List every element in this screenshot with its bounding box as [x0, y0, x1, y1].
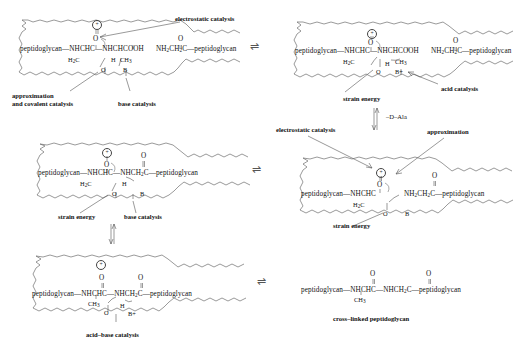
equilibrium-arrow-middle: ⇌ [252, 163, 261, 176]
serine-oxygen: O [383, 210, 388, 217]
acyl-enzyme-chain: peptidoglycan—NHCHC [301, 190, 376, 198]
label-cross-linked-peptidoglycan: cross–linked peptidoglycan [333, 315, 409, 322]
label-approximation-covalent-1: approximation [12, 92, 54, 99]
pointer-electrostatic-mr [300, 134, 380, 174]
methylene-group: H2C [68, 56, 79, 64]
base-group: B [140, 190, 144, 197]
label-approximation-mr: approximation [427, 128, 469, 135]
transferred-hydrogen: H [385, 60, 390, 67]
enzyme-charge-icon: + [96, 260, 106, 270]
methylene-group: H2C [343, 58, 354, 66]
panel-top-right: + O peptidoglycan—NHCHC—NHCHCOOH NH2CH2C… [283, 12, 515, 94]
pointer-approximation-mr [392, 136, 452, 180]
product-methyl-group: CH3 [354, 296, 365, 304]
product-chain: peptidoglycan—NHCHC—NHCH2C—peptidoglycan [301, 286, 461, 294]
label-electrostatic-catalysis-mr: electrostatic catalysis [276, 126, 335, 133]
label-base-catalysis-tl: base catalysis [118, 100, 156, 107]
equilibrium-arrow-bottom: ⇌ [257, 275, 266, 288]
equilibrium-arrow-top: ⇌ [250, 40, 259, 53]
label-strain-energy-ml: strain energy [58, 213, 95, 220]
amide-hydrogen: H [122, 180, 127, 187]
protonated-base: B+ [128, 310, 136, 317]
substrate-right-chain: NH2CH2C—peptidoglycan [431, 47, 511, 55]
panel-middle-left: + O peptidoglycan—NHCHC—NHCH2C—peptidogl… [28, 137, 250, 215]
pointer-electrostatic-tl [95, 20, 185, 42]
bond-lines [293, 270, 517, 320]
label-strain-energy-mr: strain energy [333, 222, 370, 229]
label-d-ala-loss: –D–Ala [386, 113, 407, 120]
bond-lines [24, 250, 248, 324]
glycine-amine-chain: NH2CH2C—peptidoglycan [404, 190, 484, 198]
acyl-oxygen-right: O [141, 152, 146, 160]
carbonyl-oxygen: O [377, 181, 382, 189]
carbonyl-oxygen-right: O [138, 274, 143, 282]
label-acid-catalysis-tr: acid catalysis [441, 85, 478, 92]
cross-linked-chain: peptidoglycan—NHCHC—NHCH2C—peptidoglycan [32, 290, 192, 298]
label-acid-base-catalysis: acid–base catalysis [86, 331, 139, 338]
acyl-oxygen-right: O [453, 37, 458, 45]
vertical-equilibrium-arrow [107, 222, 121, 248]
methylene-group: H2C [80, 180, 91, 188]
enzyme-charge-icon: + [367, 29, 377, 39]
substrate-right-chain: NH2CH2C—peptidoglycan [156, 45, 236, 53]
base-group: B [123, 66, 127, 73]
methylene-group: H2C [353, 201, 364, 209]
methyl-group: CH3 [88, 300, 99, 308]
enzyme-envelope-icon [24, 250, 248, 324]
methyl-group: CH3 [120, 56, 131, 64]
serine-oxygen: O [112, 190, 117, 197]
transferred-hydrogen: H [111, 56, 116, 63]
methyl-group: CH3 [395, 58, 406, 66]
label-base-catalysis-ml: base catalysis [124, 213, 162, 220]
tetrahedral-intermediate-chain: peptidoglycan—NHCHC—NHCH2C—peptidoglycan [38, 169, 198, 177]
carbonyl-oxygen-left: O [99, 274, 104, 282]
enzyme-charge-icon: + [102, 148, 112, 158]
protonated-base: B+ [395, 68, 403, 75]
panel-bottom-right: O O peptidoglycan—NHCHC—NHCH2C—peptidogl… [293, 270, 517, 320]
substrate-left-chain: peptidoglycan—NHCHC—NHCHCOOH [295, 47, 419, 55]
carbonyl-oxygen: O [368, 39, 373, 47]
product-carbonyl-oxygen-left: O [370, 270, 375, 278]
label-strain-energy-tr: strain energy [343, 95, 380, 102]
serine-oxygen: O [104, 309, 109, 316]
d-ala-loss-arrow [369, 105, 383, 133]
panel-bottom-left: + O O peptidoglycan—NHCHC—NHCH2C—peptido… [24, 250, 248, 324]
base-group: B [405, 210, 409, 217]
serine-oxygen: O [101, 66, 106, 73]
label-approximation-covalent-2: and covalent catalysis [12, 100, 73, 107]
product-carbonyl-oxygen-right: O [426, 270, 431, 278]
serine-oxygen: O [376, 68, 381, 75]
annotation-pointers [24, 250, 248, 324]
substrate-left-chain: peptidoglycan—NHCHC—NHCHCOOH [20, 45, 144, 53]
transferred-hydrogen: H [120, 302, 125, 309]
oxyanion-oxygen: O [104, 161, 109, 169]
